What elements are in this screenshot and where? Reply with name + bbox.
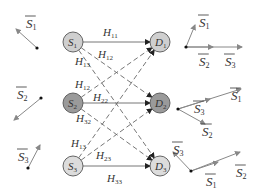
origin-dot xyxy=(184,45,187,48)
vector-label: S2 xyxy=(202,124,213,140)
channel-label: H33 xyxy=(106,172,122,186)
origin-dot xyxy=(35,46,38,49)
channel-label: H13 xyxy=(70,137,86,151)
vector-label: S3 xyxy=(194,101,205,117)
vector-label: S3 xyxy=(225,54,236,70)
node-D1: D1 xyxy=(150,32,170,52)
constellation-3: S3S1S2 xyxy=(172,142,247,190)
vector-label: S3 xyxy=(173,142,184,158)
vector-label: S3 xyxy=(18,149,29,165)
channel-label: H12 xyxy=(74,78,90,92)
channel-H11: H11 xyxy=(83,26,150,42)
origin-dot xyxy=(189,169,192,172)
channel-H23: H23 xyxy=(81,109,152,163)
channel-H32: H32 xyxy=(75,109,152,160)
channel-label: H22 xyxy=(92,91,108,105)
vector-label: S1 xyxy=(26,16,37,32)
node-S3: S3 xyxy=(63,156,83,176)
left-vector-1: S1 xyxy=(16,16,39,50)
vector-label: S2 xyxy=(17,87,28,103)
channel-label: H12 xyxy=(97,48,113,62)
constellation-2: S1S3S2 xyxy=(176,88,241,140)
origin-dot xyxy=(39,96,42,99)
vector-label: S2 xyxy=(236,165,247,181)
channel-H33: H33 xyxy=(83,166,150,186)
vector-label: S1 xyxy=(231,88,242,104)
vector-label: S1 xyxy=(206,174,217,190)
channel-H22: H22 xyxy=(83,91,150,105)
channel-label: H13 xyxy=(74,55,90,69)
node-D3: D3 xyxy=(150,156,170,176)
channel-H13: H13 xyxy=(74,50,154,158)
node-S2: S2 xyxy=(63,93,83,113)
constellation-1: S1S2S3 xyxy=(184,15,242,70)
left-vector-2: S2 xyxy=(14,87,43,120)
vector-label: S1 xyxy=(199,15,210,31)
left-vector-3: S3 xyxy=(17,145,40,170)
diagram-svg: H11H12H13H12H22H32H13H23H33S1S2S3D1D2D3S… xyxy=(0,0,257,193)
node-D2: D2 xyxy=(150,93,170,113)
interference-channel-diagram: H11H12H13H12H22H32H13H23H33S1S2S3D1D2D3S… xyxy=(0,0,257,193)
node-S1: S1 xyxy=(63,32,83,52)
origin-dot xyxy=(26,166,29,169)
vector-label: S2 xyxy=(199,54,210,70)
channel-label: H11 xyxy=(102,26,118,40)
channel-label: H23 xyxy=(95,149,111,163)
origin-dot xyxy=(176,107,179,110)
